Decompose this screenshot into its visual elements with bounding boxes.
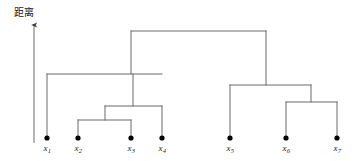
dendrogram-figure: 距离 x1x2x3x4x5x6x7 xyxy=(0,0,355,161)
leaf-node-x3 xyxy=(128,135,133,140)
leaf-label-x6: x6 xyxy=(282,143,289,153)
leaf-node-x7 xyxy=(334,135,339,140)
leaf-node-x4 xyxy=(159,135,164,140)
distance-axis-label: 距离 xyxy=(14,4,34,19)
leaf-node-layer xyxy=(44,135,339,140)
leaf-node-x1 xyxy=(44,135,49,140)
leaf-label-x1: x1 xyxy=(43,143,50,153)
link-layer xyxy=(47,31,337,138)
leaf-node-x6 xyxy=(283,135,288,140)
leaf-label-x2: x2 xyxy=(74,143,81,153)
leaf-label-x4: x4 xyxy=(158,143,165,153)
leaf-label-x7: x7 xyxy=(333,143,340,153)
leaf-node-x2 xyxy=(75,135,80,140)
leaf-label-x3: x3 xyxy=(127,143,134,153)
dendrogram-canvas xyxy=(0,0,355,161)
leaf-node-x5 xyxy=(227,135,232,140)
leaf-label-x5: x5 xyxy=(226,143,233,153)
